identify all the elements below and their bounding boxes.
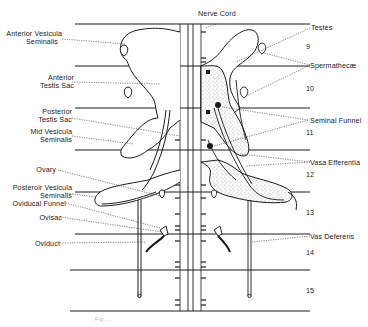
label-spermathecae: Spermathecæ — [310, 62, 356, 70]
segment-number-12: 12 — [306, 170, 314, 179]
label-posterior-vesicula-seminalis: Posteroir Vesicula Seminalis — [13, 184, 72, 199]
leader-lines — [58, 24, 310, 243]
label-vas-deferens: Vas Deferens — [310, 233, 354, 241]
segment-number-13: 13 — [306, 208, 314, 217]
label-nerve-cord: Nerve Cord — [198, 10, 236, 18]
posterior-vesicula-seminalis-shape — [95, 170, 180, 206]
figure-caption: Fig. ... — [95, 316, 112, 322]
label-seminal-funnel: Seminal Funnel — [310, 117, 361, 125]
label-oviduct: Oviduct — [35, 240, 60, 248]
segment-number-10: 10 — [306, 84, 314, 93]
segment-number-14: 14 — [306, 248, 314, 257]
label-vasa-efferentia: Vasa Efferentia — [310, 159, 360, 167]
label-anterior-testis-sac: Anterior Testis Sac — [40, 74, 74, 89]
left-vesiculae — [95, 28, 180, 297]
label-ovisac: Ovisac — [39, 214, 62, 222]
septa-lines — [70, 24, 310, 311]
label-anterior-vesicula-seminalis: Anterior Vesicula Seminalis — [6, 30, 62, 45]
label-testes: Testes — [311, 24, 332, 32]
segment-number-11: 11 — [306, 128, 313, 137]
segment-number-15: 15 — [306, 286, 314, 295]
segment-number-9: 9 — [306, 42, 310, 51]
right-testis-sacs — [201, 30, 297, 210]
label-oviducal-funnel: Oviducal Funnel — [13, 200, 66, 208]
label-posterior-testis-sac: Posterior Testis Sac — [38, 108, 72, 123]
label-ovary: Ovary — [36, 166, 56, 174]
label-mid-vesicula-seminalis: Mid Vesicula Seminalis — [30, 128, 72, 143]
